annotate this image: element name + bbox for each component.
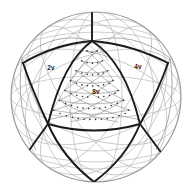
- vertex-dot: [105, 106, 107, 108]
- label-2v: 2v: [47, 64, 55, 71]
- meridian-arc-c: [22, 11, 170, 184]
- vertex-dot: [86, 62, 88, 64]
- vertex-dot: [123, 100, 125, 102]
- vertex-dot: [96, 50, 98, 52]
- vertex-dot: [82, 107, 84, 109]
- vertex-dot: [97, 74, 99, 76]
- grid-left-4: [59, 71, 108, 101]
- vertex-dot: [76, 95, 78, 97]
- vertex-dot: [66, 115, 68, 117]
- vertex-dot: [110, 105, 112, 107]
- vertex-dot: [103, 84, 105, 86]
- geodesic-figure: 2v 4v 8v: [0, 0, 191, 193]
- vertex-dot: [59, 113, 61, 115]
- vertex-dot: [87, 85, 89, 87]
- vertex-dot: [81, 84, 83, 86]
- vertex-dot: [72, 117, 74, 119]
- vertex-dot: [77, 118, 79, 120]
- vertex-dot: [118, 115, 120, 117]
- vertex-dot: [71, 105, 73, 107]
- label-8v: 8v: [92, 88, 100, 95]
- grid-right-5: [71, 81, 131, 111]
- vertex-dot: [97, 62, 99, 64]
- vertex-dot: [64, 90, 66, 92]
- grid-row-7: [54, 110, 129, 114]
- meridian-arc-e: [22, 11, 170, 184]
- vertex-dot: [102, 60, 104, 62]
- grid-right-7: [59, 100, 117, 121]
- vertex-dot: [108, 82, 110, 84]
- vertex-dot: [75, 70, 77, 72]
- label-4v: 4v: [134, 63, 142, 70]
- vertex-dot: [76, 82, 78, 84]
- vertex-dot: [112, 117, 114, 119]
- grid-row-6: [59, 100, 123, 104]
- vertex-dot: [95, 119, 97, 121]
- vertex-dot: [83, 118, 85, 120]
- vertex-dot: [86, 74, 88, 76]
- geodesic-sphere-diagram: 2v 4v 8v: [0, 0, 191, 193]
- vertex-dot: [92, 63, 94, 65]
- latitude-arc-lower2: [31, 156, 161, 169]
- front-triangle-base-edge: [48, 124, 140, 131]
- vertex-dot: [101, 118, 103, 120]
- vertex-dot: [53, 110, 55, 112]
- vertex-dot: [59, 100, 61, 102]
- front-triangle-right-edge: [92, 41, 140, 124]
- left-limb-edge: [23, 63, 48, 124]
- vertex-dot: [107, 70, 109, 72]
- vertex-dot: [87, 96, 89, 98]
- vertex-dot: [89, 119, 91, 121]
- vertex-dot: [91, 52, 93, 54]
- vertex-dot: [81, 72, 83, 74]
- vertex-dot: [77, 106, 79, 108]
- vertex-dot: [109, 95, 111, 97]
- vertex-dot: [128, 110, 130, 112]
- vertex-dot: [103, 96, 105, 98]
- vertex-dot: [65, 103, 67, 105]
- vertex-dot: [82, 96, 84, 98]
- grid-right-6: [65, 91, 139, 120]
- vertex-dot: [88, 108, 90, 110]
- vertex-dot: [124, 113, 126, 115]
- vertex-dot: [93, 108, 95, 110]
- vertex-dot: [102, 72, 104, 74]
- vertex-dot: [70, 80, 72, 82]
- vertex-dot: [86, 50, 88, 52]
- vertex-dot: [98, 96, 100, 98]
- vertex-dot: [99, 107, 101, 109]
- vertex-dot: [106, 118, 108, 120]
- vertex-dot: [81, 60, 83, 62]
- vertex-dot: [70, 93, 72, 95]
- vertex-dot: [117, 90, 119, 92]
- grid-left-6: [50, 91, 119, 120]
- vertex-dot: [92, 85, 94, 87]
- vertex-dot: [116, 103, 118, 105]
- vertex-dot: [97, 85, 99, 87]
- vertex-dot: [114, 93, 116, 95]
- secondary-arc-7: [20, 58, 36, 150]
- vertex-dot: [112, 80, 114, 82]
- latitude-arc-upper2: [31, 25, 161, 38]
- vertex-dot: [92, 74, 94, 76]
